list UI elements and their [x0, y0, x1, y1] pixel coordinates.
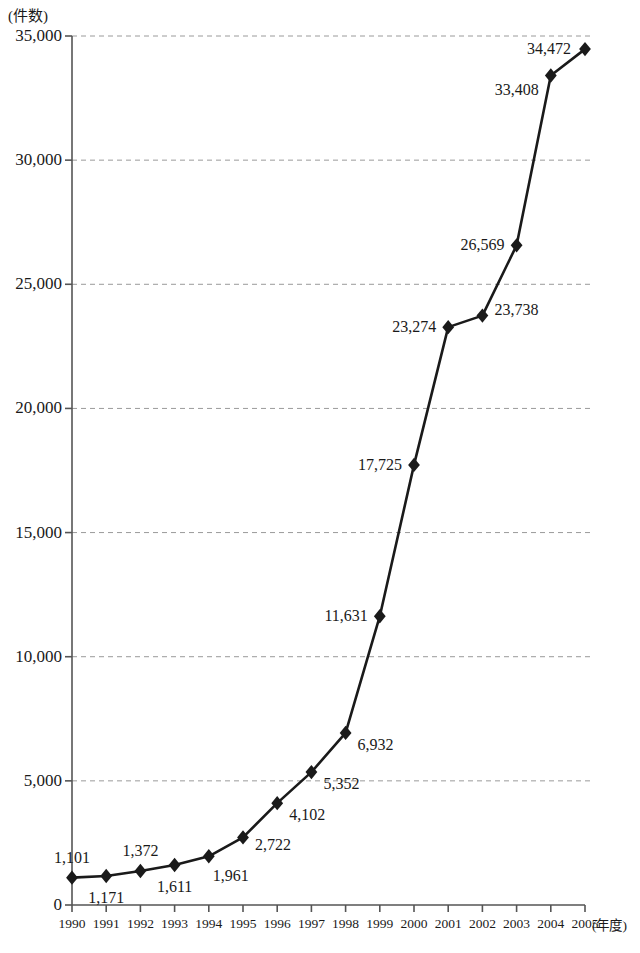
- data-point-marker: [408, 458, 420, 472]
- data-point-label: 34,472: [527, 40, 571, 58]
- y-axis-tick-label: 25,000: [0, 274, 62, 294]
- data-point-label: 17,725: [358, 456, 402, 474]
- y-axis-tick-label: 5,000: [0, 771, 62, 791]
- x-axis-tick-label: 1993: [161, 916, 188, 932]
- x-axis-tick-label: 1991: [93, 916, 120, 932]
- series-line: [72, 49, 585, 878]
- data-point-marker: [134, 864, 146, 878]
- x-axis-tick-label: 1999: [366, 916, 393, 932]
- data-point-label: 6,932: [358, 736, 394, 754]
- x-axis-tick-label: 2003: [503, 916, 530, 932]
- y-axis-tick-label: 15,000: [0, 523, 62, 543]
- x-axis-tick-label: 1998: [332, 916, 359, 932]
- x-axis-tick-label: 1990: [59, 916, 86, 932]
- data-point-label: 23,738: [494, 301, 538, 319]
- data-point-label: 1,611: [157, 878, 192, 896]
- data-point-label: 23,274: [392, 318, 436, 336]
- x-axis-title: (年度): [592, 914, 627, 934]
- data-point-label: 4,102: [289, 806, 325, 824]
- series-markers: [66, 42, 591, 885]
- line-chart: (件数) 05,00010,00015,00020,00025,00030,00…: [0, 0, 640, 953]
- data-point-label: 1,171: [88, 889, 124, 907]
- y-axis-tick-label: 10,000: [0, 647, 62, 667]
- x-axis-tick-label: 2000: [401, 916, 428, 932]
- data-point-marker: [66, 870, 78, 884]
- x-axis-tick-label: 2002: [469, 916, 496, 932]
- x-axis-tick-label: 1996: [264, 916, 291, 932]
- x-axis-tick-label: 1995: [230, 916, 257, 932]
- y-axis-tick-label: 20,000: [0, 398, 62, 418]
- data-point-label: 5,352: [323, 775, 359, 793]
- x-axis-tick-label: 1994: [195, 916, 222, 932]
- data-point-label: 1,372: [122, 842, 158, 860]
- data-point-marker: [374, 609, 386, 623]
- data-point-label: 2,722: [255, 836, 291, 854]
- y-axis-tick-label: 30,000: [0, 150, 62, 170]
- data-point-label: 33,408: [495, 81, 539, 99]
- data-point-marker: [511, 238, 523, 252]
- data-point-marker: [476, 308, 488, 322]
- data-point-marker: [442, 320, 454, 334]
- y-axis-tick-label: 0: [0, 895, 62, 915]
- x-axis-tick-label: 1997: [298, 916, 325, 932]
- gridlines: [72, 36, 590, 781]
- x-axis-tick-label: 2004: [537, 916, 564, 932]
- data-point-marker: [203, 849, 215, 863]
- data-point-label: 1,101: [54, 849, 90, 867]
- data-point-marker: [169, 858, 181, 872]
- data-point-label: 11,631: [324, 607, 367, 625]
- y-axis-tick-label: 35,000: [0, 26, 62, 46]
- data-point-label: 1,961: [213, 867, 249, 885]
- x-axis-tick-label: 1992: [127, 916, 154, 932]
- data-point-marker: [545, 68, 557, 82]
- x-axis-tick-label: 2001: [435, 916, 462, 932]
- data-point-marker: [100, 869, 112, 883]
- data-point-marker: [579, 42, 591, 56]
- data-point-label: 26,569: [461, 236, 505, 254]
- x-axis-tick-marks: [72, 905, 585, 912]
- y-axis-tick-marks: [65, 36, 72, 905]
